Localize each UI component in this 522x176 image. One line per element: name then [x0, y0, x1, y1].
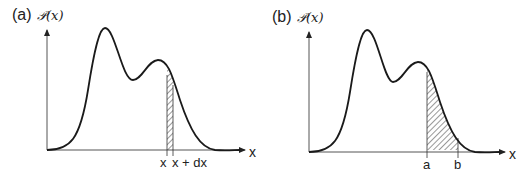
panel-a-label: (a) — [12, 6, 32, 23]
panel-a-y-axis-label: 𝒫(x) — [37, 8, 63, 23]
panel-a-density-curve — [47, 28, 240, 150]
panel-a-tick-x: x — [160, 155, 167, 170]
panel-b-tick-b: b — [454, 157, 461, 172]
panel-b-shaded-region — [309, 30, 500, 152]
panel-b: (b) 𝒫(x) a b x — [272, 8, 516, 172]
panel-b-x-axis-label: x — [509, 146, 516, 162]
panel-b-tick-a: a — [423, 157, 431, 172]
probability-density-diagram: (a) 𝒫(x) x x + dx x (b) 𝒫(x) a b x — [0, 0, 522, 176]
panel-b-y-axis-label: 𝒫(x) — [297, 10, 323, 25]
panel-a: (a) 𝒫(x) x x + dx x — [12, 6, 256, 170]
panel-a-x-axis-label: x — [249, 144, 256, 160]
panel-a-tick-x-plus-dx: x + dx — [172, 155, 208, 170]
panel-b-label: (b) — [272, 8, 292, 25]
panel-a-shaded-strip — [47, 28, 240, 150]
panel-b-density-curve — [309, 30, 500, 152]
